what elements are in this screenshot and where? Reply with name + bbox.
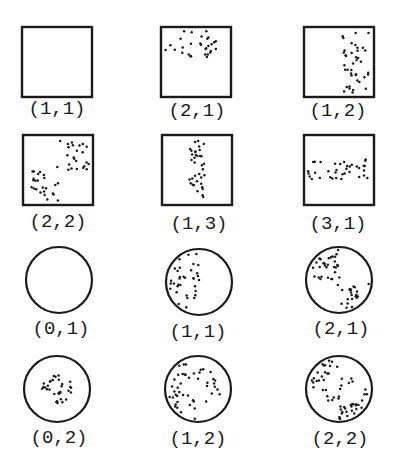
panel-label: (1,1) — [28, 98, 85, 120]
circle-outline — [165, 356, 231, 422]
panel-label: (0,2) — [30, 427, 87, 449]
panel-label: (1,1) — [169, 321, 226, 343]
square-outline — [161, 27, 231, 97]
panel-sq-1-1 — [22, 27, 92, 97]
circle-outline — [306, 247, 372, 313]
square-outline — [22, 27, 92, 97]
square-outline — [304, 27, 374, 97]
circle-outline — [166, 249, 232, 315]
panel-label: (2,1) — [168, 100, 225, 122]
panel-ci-1-1 — [166, 249, 232, 315]
panel-ci-2-1 — [306, 247, 372, 313]
panel-ci-0-1 — [26, 247, 92, 313]
circle-outline — [24, 356, 90, 422]
panel-sq-2-2 — [23, 135, 93, 205]
panel-sq-2-1 — [161, 27, 231, 97]
square-outline — [23, 135, 93, 205]
circle-outline — [26, 247, 92, 313]
panel-ci-2-2 — [306, 356, 372, 422]
panel-label: (2,2) — [311, 428, 368, 450]
panel-label: (0,1) — [32, 318, 89, 340]
panel-label: (1,2) — [169, 428, 226, 450]
square-outline — [162, 135, 232, 205]
panel-sq-1-3 — [162, 135, 232, 205]
panel-sq-3-1 — [304, 135, 374, 205]
panel-ci-1-2 — [165, 356, 231, 422]
panel-label: (3,1) — [309, 213, 366, 235]
panel-sq-1-2 — [304, 27, 374, 97]
panel-label: (1,3) — [170, 213, 227, 235]
panel-label: (2,1) — [312, 318, 369, 340]
panel-label: (1,2) — [309, 100, 366, 122]
panel-label: (2,2) — [29, 211, 86, 233]
panel-ci-0-2 — [24, 356, 90, 422]
